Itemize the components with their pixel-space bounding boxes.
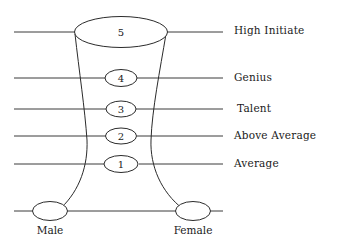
level-number-5: 5 (118, 27, 124, 38)
level-number-4: 4 (118, 73, 124, 84)
male-base-ellipse (33, 202, 68, 221)
hourglass-distribution-figure: 5 4 3 2 1 (0, 0, 344, 249)
level-number-2: 2 (118, 131, 124, 142)
tier-label-genius: Genius (234, 72, 272, 83)
curve-right-wall (151, 34, 183, 209)
curve-left-wall (61, 34, 87, 208)
diagram-canvas: 5 4 3 2 1 High Initiate Genius Talent Ab… (0, 0, 344, 249)
female-base-ellipse (176, 202, 211, 221)
axis-label-female: Female (165, 225, 221, 236)
tier-label-above-average: Above Average (234, 130, 316, 141)
level-number-3: 3 (118, 104, 124, 115)
level-number-1: 1 (118, 159, 124, 170)
tier-label-talent: Talent (237, 103, 271, 114)
axis-label-male: Male (26, 225, 74, 236)
tier-label-average: Average (234, 158, 279, 169)
tier-label-high-initiate: High Initiate (234, 25, 304, 36)
